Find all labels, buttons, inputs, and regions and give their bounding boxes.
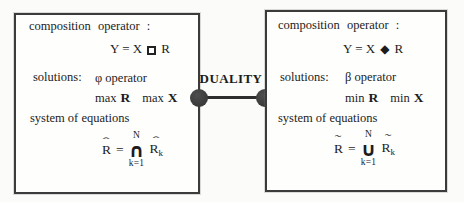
optimization-term: min R <box>345 91 378 106</box>
optimization-row: max R max X <box>95 91 178 106</box>
opt-prefix: min <box>390 92 409 106</box>
opt-prefix: max <box>95 92 117 106</box>
hat-accent: ˆ <box>103 136 110 147</box>
opt-variable: R <box>368 91 378 106</box>
union-icon: ∪ <box>361 141 376 157</box>
subscript-k: k <box>390 147 395 157</box>
lhs-hat-R: ˆR <box>102 143 111 157</box>
dual-panel: composition operator : Y = X ◆ R solutio… <box>265 10 447 192</box>
duality-label: DUALITY <box>196 71 266 87</box>
optimization-term: max X <box>142 91 177 106</box>
system-of-equations-label: system of equations <box>30 112 129 126</box>
rhs-hat-R-k: ˆRk <box>149 142 163 158</box>
tilde-accent: ˜ <box>335 134 342 145</box>
composition-rhs: R <box>161 42 170 56</box>
opt-prefix: max <box>142 92 164 106</box>
composition-lhs: Y = X <box>343 42 375 56</box>
opt-variable: R <box>121 91 131 106</box>
opt-prefix: min <box>345 92 364 106</box>
equals-sign: = <box>116 142 124 158</box>
composition-operator-heading: composition operator : <box>278 19 399 33</box>
composition-operator-heading: composition operator : <box>29 20 150 34</box>
subscript-k: k <box>158 148 163 158</box>
composition-equation: Y = X ◆ R <box>343 42 403 56</box>
solutions-label: solutions: <box>280 71 329 85</box>
duality-diagram: composition operator : Y = X R solutions… <box>0 0 464 202</box>
intersection-icon: ∩ <box>129 142 144 158</box>
primal-panel: composition operator : Y = X R solutions… <box>14 13 200 194</box>
operator-name: β operator <box>345 71 396 85</box>
opt-variable: X <box>414 91 424 106</box>
box-operator-icon <box>147 46 156 55</box>
union-equation: ˜R = N ∪ k=1 ˜Rk <box>334 130 395 167</box>
solutions-label: solutions: <box>33 71 82 85</box>
tilde-accent: ˜ <box>384 133 391 144</box>
lower-limit: k=1 <box>361 158 377 168</box>
composition-rhs: R <box>394 42 403 56</box>
system-of-equations-label: system of equations <box>278 112 377 126</box>
operator-name: φ operator <box>95 72 147 86</box>
optimization-term: max R <box>95 91 130 106</box>
lower-limit: k=1 <box>129 159 145 169</box>
diamond-operator-icon: ◆ <box>380 43 389 55</box>
duality-node-left <box>190 89 208 107</box>
optimization-row: min R min X <box>345 91 423 106</box>
rhs-tilde-R-k: ˜Rk <box>381 141 395 157</box>
optimization-term: min X <box>390 91 423 106</box>
composition-lhs: Y = X <box>110 42 142 56</box>
opt-variable: X <box>168 91 178 106</box>
lhs-tilde-R: ˜R <box>334 142 343 156</box>
big-intersection-operator: N ∩ k=1 <box>129 131 145 168</box>
hat-accent: ˆ <box>152 135 159 146</box>
composition-equation: Y = X R <box>110 42 170 56</box>
equals-sign: = <box>348 141 356 157</box>
intersection-equation: ˆR = N ∩ k=1 ˆRk <box>102 131 163 168</box>
big-union-operator: N ∪ k=1 <box>361 130 377 167</box>
